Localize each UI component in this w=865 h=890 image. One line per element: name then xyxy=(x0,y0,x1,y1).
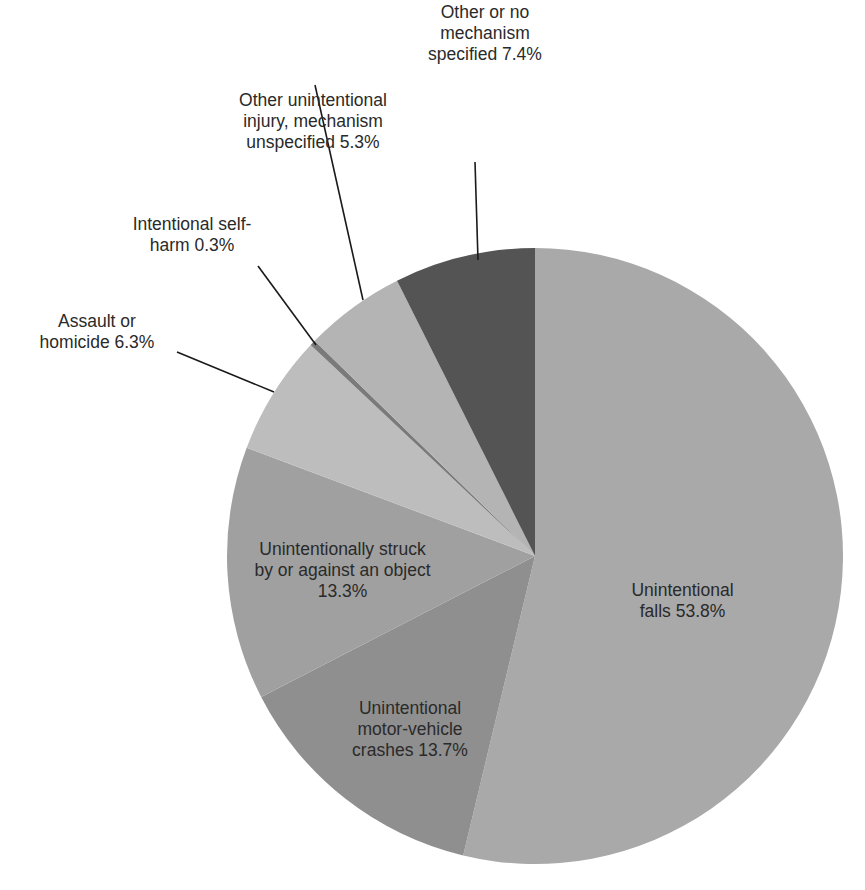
leader-line-other xyxy=(475,162,478,260)
label-self-harm: Intentional self- harm 0.3% xyxy=(112,214,272,256)
label-motor-vehicle: Unintentional motor-vehicle crashes 13.7… xyxy=(335,698,485,761)
label-assault: Assault or homicide 6.3% xyxy=(22,311,172,353)
label-falls: Unintentional falls 53.8% xyxy=(610,580,755,622)
label-struck: Unintentionally struck by or against an … xyxy=(225,539,460,602)
leader-line-self-harm xyxy=(258,266,316,345)
label-other-unintentional: Other unintentional injury, mechanism un… xyxy=(218,90,408,153)
label-other-no-mechanism: Other or no mechanism specified 7.4% xyxy=(410,2,560,65)
leader-line-assault xyxy=(177,352,274,392)
